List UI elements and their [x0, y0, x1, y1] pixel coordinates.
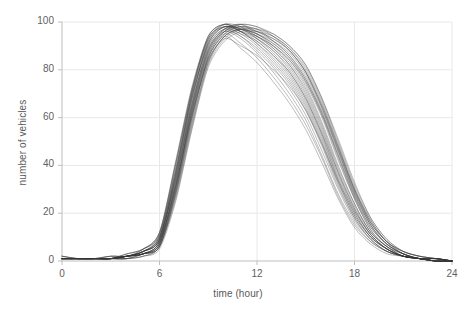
chart-container: 020406080100 06121824 time (hour) number… [0, 0, 476, 314]
axis-lines [58, 22, 452, 265]
x-axis-tick-label: 6 [140, 268, 180, 279]
line-chart-plot [0, 0, 476, 314]
x-axis-tick-label: 24 [432, 268, 472, 279]
y-axis-tick-label: 100 [14, 15, 54, 26]
x-axis-tick-label: 18 [335, 268, 375, 279]
x-axis-title: time (hour) [0, 288, 476, 299]
y-axis-tick-label: 0 [14, 254, 54, 265]
x-axis-tick-label: 12 [237, 268, 277, 279]
y-axis-title: number of vehicles [17, 73, 28, 213]
x-axis-tick-label: 0 [42, 268, 82, 279]
